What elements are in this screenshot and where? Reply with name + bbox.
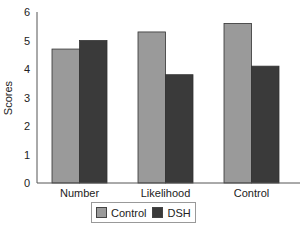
bar-chart: 0123456 Scores NumberLikelihoodControl — [0, 0, 302, 227]
bar-control-number — [52, 49, 80, 183]
legend-label-control: Control — [111, 207, 146, 219]
x-category-label: Likelihood — [141, 187, 191, 199]
y-axis-label: Scores — [2, 80, 14, 115]
legend-swatch-control — [96, 207, 107, 218]
legend-item-control: Control — [96, 207, 146, 219]
bar-dsh-number — [80, 41, 108, 184]
y-tick-label: 2 — [24, 120, 30, 132]
y-tick-label: 5 — [24, 35, 30, 47]
bar-dsh-likelihood — [166, 75, 194, 183]
bar-control-control — [224, 23, 252, 183]
bar-control-likelihood — [138, 32, 166, 183]
y-tick-label: 0 — [24, 177, 30, 189]
bar-dsh-control — [252, 66, 280, 183]
x-axis-categories: NumberLikelihoodControl — [60, 187, 269, 199]
y-tick-label: 6 — [24, 6, 30, 18]
y-tick-label: 3 — [24, 92, 30, 104]
y-tick-label: 4 — [24, 63, 30, 75]
x-category-label: Control — [234, 187, 269, 199]
legend-item-dsh: DSH — [152, 207, 190, 219]
legend-label-dsh: DSH — [167, 207, 190, 219]
legend: Control DSH — [91, 202, 196, 223]
y-tick-label: 1 — [24, 149, 30, 161]
bars — [52, 23, 279, 183]
legend-swatch-dsh — [152, 207, 163, 218]
y-axis-ticks: 0123456 — [24, 6, 30, 189]
x-category-label: Number — [60, 187, 99, 199]
